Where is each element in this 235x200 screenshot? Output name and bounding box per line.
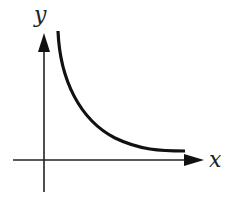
chart-canvas: y x xyxy=(0,0,235,200)
y-axis-label: y xyxy=(33,2,47,27)
curve-series xyxy=(58,31,185,151)
y-axis-arrow-icon xyxy=(38,33,50,52)
x-axis-arrow-icon xyxy=(184,154,204,166)
chart-svg: y x xyxy=(0,0,235,200)
x-axis-label: x xyxy=(209,147,222,172)
